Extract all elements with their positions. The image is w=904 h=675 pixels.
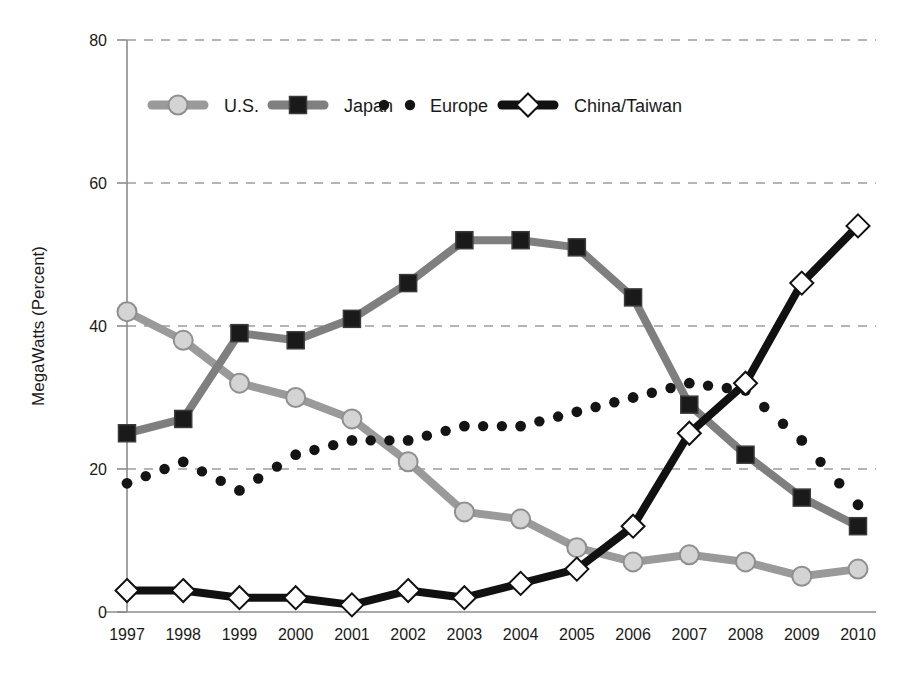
series-dot-segment xyxy=(440,426,450,436)
data-point-marker xyxy=(850,518,867,535)
data-point-marker xyxy=(680,545,699,564)
data-point-marker xyxy=(175,410,192,427)
legend-label: China/Taiwan xyxy=(574,96,682,116)
data-point-marker xyxy=(178,456,189,467)
gridlines-group: 020406080 xyxy=(89,32,876,621)
line-chart: 020406080MegaWatts (Percent)199719981999… xyxy=(0,0,904,675)
series-dot-segment xyxy=(159,464,169,474)
series-dot-segment xyxy=(647,388,657,398)
data-point-marker xyxy=(119,425,136,442)
y-tick-label: 60 xyxy=(89,175,107,192)
legend-marker-b-2 xyxy=(405,100,415,110)
series-dot-segment xyxy=(365,435,375,445)
series-dot-segment xyxy=(328,440,338,450)
x-tick-label: 2000 xyxy=(278,626,314,643)
data-point-marker xyxy=(681,396,698,413)
series-dot-segment xyxy=(197,466,207,476)
data-point-marker xyxy=(343,310,360,327)
series-dot-segment xyxy=(665,383,675,393)
series-dot-segment xyxy=(815,457,825,467)
legend-marker-0 xyxy=(169,96,188,115)
x-tick-label: 2003 xyxy=(447,626,483,643)
chart-container: 020406080MegaWatts (Percent)199719981999… xyxy=(0,0,904,675)
series-dot-segment xyxy=(309,445,319,455)
series-line xyxy=(127,312,858,577)
x-axis-labels-group: 1997199819992000200120022003200420052006… xyxy=(109,626,876,643)
series-dot-segment xyxy=(703,380,713,390)
series-dot-segment xyxy=(590,402,600,412)
series-dot-segment xyxy=(497,421,507,431)
data-point-marker xyxy=(399,452,418,471)
data-point-marker xyxy=(737,446,754,463)
series-china-taiwan xyxy=(116,214,870,616)
data-point-marker xyxy=(284,586,307,609)
data-point-marker xyxy=(455,502,474,521)
data-point-marker xyxy=(118,302,137,321)
data-point-marker xyxy=(793,489,810,506)
y-tick-label: 0 xyxy=(98,604,107,621)
data-point-marker xyxy=(456,232,473,249)
data-point-marker xyxy=(286,388,305,407)
data-point-marker xyxy=(174,331,193,350)
series-europe xyxy=(122,378,864,510)
series-dot-segment xyxy=(609,397,619,407)
y-tick-label: 20 xyxy=(89,461,107,478)
series-dot-segment xyxy=(272,461,282,471)
x-tick-label: 2008 xyxy=(728,626,764,643)
data-point-marker xyxy=(571,406,582,417)
series-dot-segment xyxy=(216,476,226,486)
series-dot-segment xyxy=(253,473,263,483)
data-point-marker xyxy=(849,560,868,579)
x-tick-label: 2007 xyxy=(672,626,708,643)
x-tick-label: 2006 xyxy=(615,626,651,643)
x-tick-label: 2009 xyxy=(784,626,820,643)
data-point-marker xyxy=(172,579,195,602)
series-dot-segment xyxy=(422,430,432,440)
data-point-marker xyxy=(340,593,363,616)
data-point-marker xyxy=(122,478,133,489)
legend-marker-3 xyxy=(517,94,540,117)
data-point-marker xyxy=(568,239,585,256)
data-point-marker xyxy=(736,552,755,571)
data-point-marker xyxy=(290,449,301,460)
x-tick-label: 1998 xyxy=(165,626,201,643)
data-point-marker xyxy=(231,325,248,342)
data-point-marker xyxy=(459,421,470,432)
legend: U.S.JapanEuropeChina/Taiwan xyxy=(152,94,682,117)
x-tick-label: 2002 xyxy=(390,626,426,643)
data-point-marker xyxy=(853,499,864,510)
data-point-marker xyxy=(509,572,532,595)
data-point-marker xyxy=(515,421,526,432)
series-dot-segment xyxy=(534,416,544,426)
data-point-marker xyxy=(624,552,643,571)
series-dot-segment xyxy=(778,419,788,429)
series-line xyxy=(127,226,858,605)
y-tick-label: 80 xyxy=(89,32,107,49)
legend-label: Europe xyxy=(430,96,488,116)
series-dot-segment xyxy=(478,421,488,431)
data-point-marker xyxy=(625,289,642,306)
series-dot-segment xyxy=(834,478,844,488)
data-point-marker xyxy=(347,435,358,446)
data-point-marker xyxy=(403,435,414,446)
data-point-marker xyxy=(567,538,586,557)
data-point-marker xyxy=(230,374,249,393)
data-point-marker xyxy=(512,232,529,249)
data-point-marker xyxy=(228,586,251,609)
x-tick-label: 2010 xyxy=(840,626,876,643)
x-tick-label: 2005 xyxy=(559,626,595,643)
x-tick-label: 2001 xyxy=(334,626,370,643)
legend-marker-2 xyxy=(379,100,389,110)
data-point-marker xyxy=(511,510,530,529)
series-dot-segment xyxy=(553,411,563,421)
data-point-marker xyxy=(684,378,695,389)
data-point-marker xyxy=(453,586,476,609)
x-tick-label: 2004 xyxy=(503,626,539,643)
series-dot-segment xyxy=(759,402,769,412)
legend-label: U.S. xyxy=(224,96,259,116)
y-axis-title: MegaWatts (Percent) xyxy=(29,246,48,406)
series-dot-segment xyxy=(384,435,394,445)
data-point-marker xyxy=(628,392,639,403)
data-point-marker xyxy=(342,409,361,428)
x-tick-label: 1997 xyxy=(109,626,145,643)
